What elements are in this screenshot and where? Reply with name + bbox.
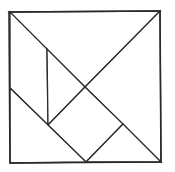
tangram-pieces bbox=[9, 11, 161, 163]
tangram-diagram bbox=[0, 0, 175, 172]
